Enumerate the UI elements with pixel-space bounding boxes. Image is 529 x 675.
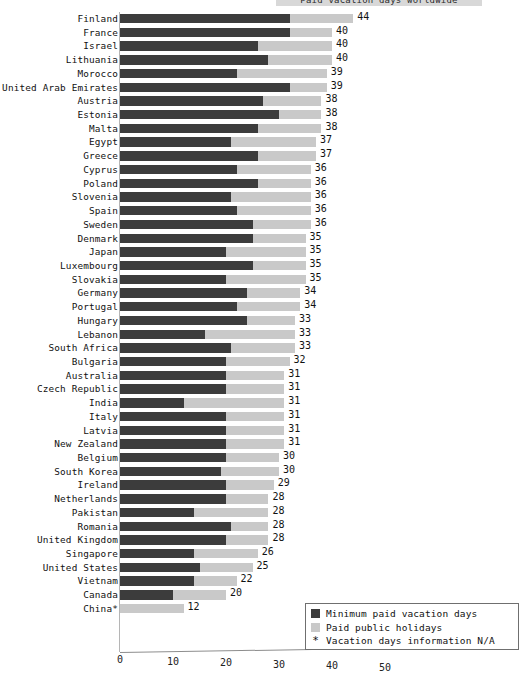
stacked-bar bbox=[120, 494, 268, 503]
legend-item-label: Minimum paid vacation days bbox=[326, 608, 477, 619]
bar-row-label: Japan bbox=[89, 245, 118, 259]
bar-row: Bulgaria32 bbox=[0, 355, 529, 369]
bar-segment-vacation-days bbox=[120, 302, 237, 311]
bar-segment-public-holidays bbox=[120, 604, 184, 613]
bar-value-label: 44 bbox=[357, 11, 369, 23]
stacked-bar bbox=[120, 426, 284, 435]
bar-value-label: 31 bbox=[288, 368, 300, 380]
stacked-bar bbox=[120, 261, 306, 270]
stacked-bar bbox=[120, 275, 306, 284]
bar-segment-vacation-days bbox=[120, 494, 226, 503]
bar-value-label: 31 bbox=[288, 409, 300, 421]
bar-segment-public-holidays bbox=[237, 302, 301, 311]
bar-row-label: United States bbox=[43, 561, 118, 575]
bar-value-label: 32 bbox=[294, 354, 306, 366]
bar-row-label: Australia bbox=[66, 369, 118, 383]
bar-row: Singapore26 bbox=[0, 547, 529, 561]
bar-row: India31 bbox=[0, 396, 529, 410]
bar-segment-vacation-days bbox=[120, 288, 247, 297]
bar-segment-public-holidays bbox=[290, 14, 354, 23]
bar-value-label: 30 bbox=[283, 450, 295, 462]
stacked-bar bbox=[120, 96, 321, 105]
stacked-bar bbox=[120, 384, 284, 393]
bar-segment-vacation-days bbox=[120, 371, 226, 380]
bar-segment-vacation-days bbox=[120, 261, 253, 270]
stacked-bar bbox=[120, 247, 306, 256]
bar-row: New Zealand31 bbox=[0, 437, 529, 451]
bar-segment-public-holidays bbox=[226, 384, 284, 393]
asterisk-icon: * bbox=[311, 636, 320, 645]
stacked-bar bbox=[120, 522, 268, 531]
bar-row-label: Lebanon bbox=[77, 328, 118, 342]
bar-row: Netherlands28 bbox=[0, 492, 529, 506]
bar-segment-public-holidays bbox=[253, 220, 311, 229]
bar-row-label: Finland bbox=[77, 12, 118, 26]
bar-segment-public-holidays bbox=[247, 316, 295, 325]
bar-row: Australia31 bbox=[0, 369, 529, 383]
chart-title: Paid vacation days worldwide bbox=[276, 0, 482, 6]
bar-segment-public-holidays bbox=[226, 412, 284, 421]
bar-segment-vacation-days bbox=[120, 69, 237, 78]
bar-value-label: 36 bbox=[315, 189, 327, 201]
bar-row: Egypt37 bbox=[0, 135, 529, 149]
bar-segment-vacation-days bbox=[120, 343, 231, 352]
bar-segment-vacation-days bbox=[120, 590, 173, 599]
bar-row: Poland36 bbox=[0, 177, 529, 191]
stacked-bar bbox=[120, 371, 284, 380]
bar-row-label: India bbox=[89, 396, 118, 410]
chart-container: Paid vacation days worldwide Finland44Fr… bbox=[0, 0, 529, 675]
bar-segment-vacation-days bbox=[120, 165, 237, 174]
bar-row-label: Greece bbox=[83, 149, 118, 163]
bar-segment-public-holidays bbox=[247, 288, 300, 297]
bar-row-label: Germany bbox=[77, 286, 118, 300]
bar-row: Spain36 bbox=[0, 204, 529, 218]
bar-row: Latvia31 bbox=[0, 424, 529, 438]
stacked-bar bbox=[120, 467, 279, 476]
bar-row: United States25 bbox=[0, 561, 529, 575]
bar-value-label: 36 bbox=[315, 176, 327, 188]
bar-segment-public-holidays bbox=[226, 480, 274, 489]
bar-row-label: Italy bbox=[89, 410, 118, 424]
bar-row-label: Israel bbox=[83, 39, 118, 53]
bar-row: Estonia38 bbox=[0, 108, 529, 122]
bar-segment-vacation-days bbox=[120, 137, 231, 146]
bar-value-label: 33 bbox=[299, 313, 311, 325]
stacked-bar bbox=[120, 234, 306, 243]
bar-row-label: Ireland bbox=[77, 478, 118, 492]
bar-row: United Kingdom28 bbox=[0, 533, 529, 547]
bar-row-label: Lithuania bbox=[66, 53, 118, 67]
bar-row-label: Latvia bbox=[83, 424, 118, 438]
bar-segment-vacation-days bbox=[120, 275, 226, 284]
bar-row: Belgium30 bbox=[0, 451, 529, 465]
legend-item: Minimum paid vacation days bbox=[311, 607, 514, 621]
bar-row-label: Cyprus bbox=[83, 163, 118, 177]
bar-row: Czech Republic31 bbox=[0, 382, 529, 396]
stacked-bar bbox=[120, 83, 327, 92]
bar-segment-public-holidays bbox=[205, 330, 295, 339]
x-tick-label: 30 bbox=[273, 659, 285, 671]
bar-row: Cyprus36 bbox=[0, 163, 529, 177]
stacked-bar bbox=[120, 69, 327, 78]
bar-row: Slovakia35 bbox=[0, 273, 529, 287]
bar-value-label: 36 bbox=[315, 162, 327, 174]
bar-row: Hungary33 bbox=[0, 314, 529, 328]
bar-segment-public-holidays bbox=[253, 261, 306, 270]
stacked-bar bbox=[120, 41, 332, 50]
bar-value-label: 37 bbox=[320, 134, 332, 146]
bar-row: Lebanon33 bbox=[0, 328, 529, 342]
bar-segment-public-holidays bbox=[194, 549, 258, 558]
bar-value-label: 28 bbox=[272, 519, 284, 531]
stacked-bar bbox=[120, 535, 268, 544]
stacked-bar bbox=[120, 439, 284, 448]
bar-row-label: Luxembourg bbox=[60, 259, 118, 273]
bar-value-label: 31 bbox=[288, 423, 300, 435]
bar-value-label: 36 bbox=[315, 217, 327, 229]
x-tick-label: 40 bbox=[326, 660, 338, 672]
bar-row-label: China* bbox=[83, 602, 118, 616]
bar-value-label: 38 bbox=[325, 121, 337, 133]
bar-row-label: Czech Republic bbox=[37, 382, 118, 396]
bar-row: Luxembourg35 bbox=[0, 259, 529, 273]
bar-segment-public-holidays bbox=[226, 247, 306, 256]
bar-row-label: Malta bbox=[89, 122, 118, 136]
plot-area: Finland44France40Israel40Lithuania40Moro… bbox=[0, 12, 529, 652]
